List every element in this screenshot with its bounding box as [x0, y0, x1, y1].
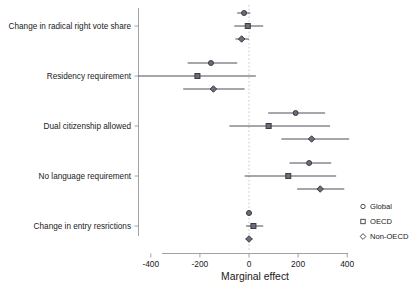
- x-axis-ticks: [151, 254, 347, 258]
- y-axis-category-label: No language requirement: [39, 172, 132, 181]
- legend-label: OECD: [370, 217, 392, 226]
- legend-item-oecd[interactable]: OECD: [361, 217, 393, 226]
- estimate-marker: [245, 24, 250, 29]
- y-axis-category-label: Change in entry resrictions: [34, 222, 131, 231]
- x-axis-tick-label: -200: [192, 259, 209, 269]
- estimate-point: [246, 224, 263, 229]
- estimate-marker: [246, 236, 253, 243]
- x-axis-tick-labels: -400-2000200400: [142, 259, 354, 269]
- x-axis-tick-label: 400: [340, 259, 354, 269]
- estimate-marker: [293, 111, 298, 116]
- legend-item-global[interactable]: Global: [361, 202, 392, 211]
- estimate-marker: [266, 124, 271, 129]
- estimate-marker: [238, 36, 245, 43]
- x-axis-tick-label: -400: [142, 259, 159, 269]
- estimate-point: [297, 186, 344, 193]
- estimate-marker: [251, 224, 256, 229]
- legend-marker: [360, 234, 366, 240]
- x-axis-title: Marginal effect: [221, 271, 289, 282]
- estimate-marker: [307, 161, 312, 166]
- estimate-point: [290, 161, 332, 166]
- estimate-point: [234, 24, 263, 29]
- estimate-marker: [195, 74, 200, 79]
- estimate-marker: [210, 86, 217, 93]
- legend-marker: [361, 219, 365, 223]
- forest-plot-canvas: Change in radical right vote shareReside…: [0, 0, 419, 290]
- legend-item-non-oecd[interactable]: Non-OECD: [360, 232, 409, 241]
- estimate-marker: [247, 211, 252, 216]
- y-axis-category-label: Change in radical right vote share: [9, 22, 132, 31]
- series-non-oecd: [183, 36, 349, 243]
- legend: GlobalOECDNon-OECD: [360, 202, 409, 241]
- y-axis-category-label: Dual citizenship allowed: [44, 122, 132, 131]
- series-oecd: [139, 24, 337, 229]
- legend-marker: [361, 204, 365, 208]
- estimate-marker: [286, 174, 291, 179]
- y-axis-ticks: [135, 26, 139, 226]
- y-axis-tick-labels: Change in radical right vote shareReside…: [9, 22, 132, 231]
- estimate-point: [281, 136, 349, 143]
- estimate-point: [235, 36, 249, 43]
- estimate-point: [139, 74, 256, 79]
- x-axis: -400-2000200400 Marginal effect: [142, 254, 354, 283]
- estimate-marker: [208, 61, 213, 66]
- y-axis: Change in radical right vote shareReside…: [9, 8, 139, 236]
- estimate-point: [229, 124, 330, 129]
- x-axis-tick-label: 0: [247, 259, 252, 269]
- estimate-marker: [317, 186, 324, 193]
- data-series-group: [139, 11, 350, 243]
- estimate-point: [183, 86, 244, 93]
- legend-label: Non-OECD: [370, 232, 409, 241]
- estimate-point: [188, 61, 238, 66]
- x-axis-tick-label: 200: [291, 259, 305, 269]
- estimate-point: [246, 211, 252, 216]
- estimate-point: [246, 236, 253, 243]
- legend-label: Global: [370, 202, 392, 211]
- forest-plot-figure: Change in radical right vote shareReside…: [0, 0, 419, 290]
- estimate-marker: [242, 11, 247, 16]
- estimate-point: [237, 11, 250, 16]
- estimate-point: [245, 174, 337, 179]
- estimate-point: [268, 111, 325, 116]
- estimate-marker: [308, 136, 315, 143]
- series-global: [188, 11, 332, 216]
- y-axis-category-label: Residency requirement: [47, 72, 132, 81]
